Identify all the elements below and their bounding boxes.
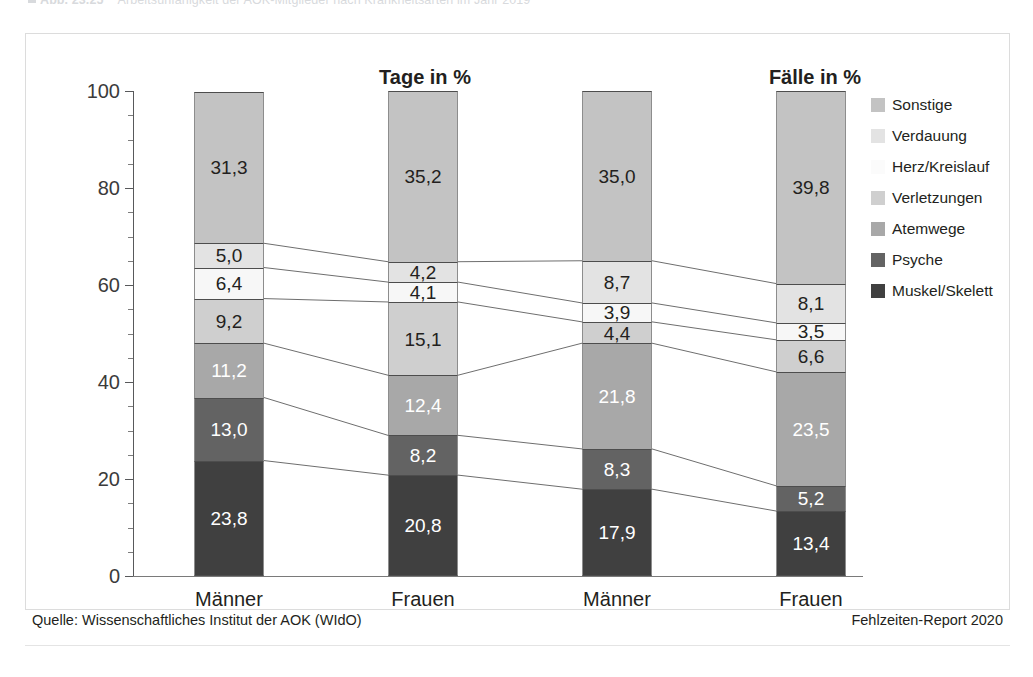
- legend-item-verdauung[interactable]: Verdauung: [871, 120, 1006, 151]
- connector-line: [652, 343, 776, 372]
- legend-item-sonstige[interactable]: Sonstige: [871, 89, 1006, 120]
- caption-marker-icon: [28, 0, 36, 3]
- bar-segment-verletzungen[interactable]: 4,4: [582, 322, 652, 343]
- bar-segment-atemwege[interactable]: 11,2: [194, 343, 264, 397]
- bar-segment-verdauung[interactable]: 5,0: [194, 243, 264, 267]
- bar-4[interactable]: 13,45,223,56,63,58,139,8: [776, 91, 846, 576]
- bar-3[interactable]: 17,98,321,84,43,98,735,0: [582, 91, 652, 576]
- y-tick-40: [125, 382, 133, 383]
- segment-value-label: 39,8: [793, 178, 830, 197]
- segment-value-label: 23,8: [211, 509, 248, 528]
- segment-value-label: 21,8: [599, 387, 636, 406]
- bar-segment-verdauung[interactable]: 4,2: [388, 262, 458, 282]
- connector-line: [264, 268, 388, 283]
- connector-line: [652, 322, 776, 340]
- legend-item-muskel-skelett[interactable]: Muskel/Skelett: [871, 275, 1006, 306]
- bar-segment-psyche[interactable]: 8,3: [582, 449, 652, 489]
- bar-segment-psyche[interactable]: 13,0: [194, 398, 264, 461]
- y-tick-label-20: 20: [98, 469, 120, 489]
- bar-segment-sonstige[interactable]: 31,3: [194, 92, 264, 244]
- chart-figure: Tage in % Fälle in % 020406080100 23,813…: [25, 33, 1010, 610]
- legend-item-herz-kreislauf[interactable]: Herz/Kreislauf: [871, 151, 1006, 182]
- y-tick-20: [125, 479, 133, 480]
- y-minor-tick: [128, 455, 133, 456]
- segment-value-label: 6,4: [216, 274, 242, 293]
- bar-segment-verletzungen[interactable]: 9,2: [194, 299, 264, 344]
- y-minor-tick: [128, 261, 133, 262]
- y-tick-label-80: 80: [98, 178, 120, 198]
- connector-line: [458, 302, 582, 322]
- connector-line: [264, 398, 388, 436]
- segment-value-label: 17,9: [599, 523, 636, 542]
- segment-value-label: 13,4: [793, 534, 830, 553]
- bar-segment-atemwege[interactable]: 21,8: [582, 343, 652, 449]
- y-minor-tick: [128, 358, 133, 359]
- y-minor-tick: [128, 431, 133, 432]
- legend-label: Atemwege: [892, 220, 965, 238]
- y-minor-tick: [128, 503, 133, 504]
- legend-item-psyche[interactable]: Psyche: [871, 244, 1006, 275]
- bar-segment-herz-kreislauf[interactable]: 3,9: [582, 303, 652, 322]
- segment-value-label: 23,5: [793, 420, 830, 439]
- segment-value-label: 5,0: [216, 246, 242, 265]
- y-tick-0: [125, 576, 133, 577]
- bar-segment-atemwege[interactable]: 12,4: [388, 375, 458, 435]
- y-minor-tick: [128, 552, 133, 553]
- bar-segment-verletzungen[interactable]: 15,1: [388, 302, 458, 375]
- connector-line: [458, 435, 582, 449]
- source-note: Quelle: Wissenschaftliches Institut der …: [32, 612, 362, 628]
- bar-segment-verdauung[interactable]: 8,7: [582, 261, 652, 303]
- bar-segment-muskel-skelett[interactable]: 17,9: [582, 489, 652, 576]
- caption-text: Arbeitsunfähigkeit der AOK-Mitglieder na…: [118, 0, 531, 7]
- connector-line: [264, 461, 388, 476]
- y-tick-label-0: 0: [109, 566, 120, 586]
- legend-item-atemwege[interactable]: Atemwege: [871, 213, 1006, 244]
- caption-number: Abb. 23.25: [40, 0, 104, 7]
- bar-segment-muskel-skelett[interactable]: 23,8: [194, 461, 264, 576]
- y-minor-tick: [128, 528, 133, 529]
- segment-value-label: 8,3: [604, 460, 630, 479]
- connector-line: [652, 303, 776, 323]
- bar-segment-sonstige[interactable]: 35,0: [582, 91, 652, 261]
- bar-segment-psyche[interactable]: 5,2: [776, 486, 846, 511]
- bar-segment-atemwege[interactable]: 23,5: [776, 372, 846, 486]
- legend-swatch-icon: [871, 129, 885, 143]
- y-tick-label-100: 100: [87, 81, 120, 101]
- connector-line: [264, 243, 388, 261]
- bar-segment-herz-kreislauf[interactable]: 6,4: [194, 268, 264, 299]
- bar-segment-muskel-skelett[interactable]: 20,8: [388, 475, 458, 576]
- bar-segment-muskel-skelett[interactable]: 13,4: [776, 511, 846, 576]
- y-minor-tick: [128, 334, 133, 335]
- figure-caption: Abb. 23.25Arbeitsunfähigkeit der AOK-Mit…: [28, 0, 530, 7]
- segment-value-label: 31,3: [211, 158, 248, 177]
- y-tick-100: [125, 91, 133, 92]
- y-tick-label-40: 40: [98, 372, 120, 392]
- connector-line: [458, 475, 582, 489]
- figure-footer: Quelle: Wissenschaftliches Institut der …: [25, 612, 1010, 640]
- bar-segment-sonstige[interactable]: 35,2: [388, 91, 458, 262]
- legend-swatch-icon: [871, 191, 885, 205]
- bar-segment-sonstige[interactable]: 39,8: [776, 91, 846, 284]
- legend-label: Psyche: [892, 251, 943, 269]
- y-tick-60: [125, 285, 133, 286]
- y-tick-80: [125, 188, 133, 189]
- bar-segment-herz-kreislauf[interactable]: 4,1: [388, 282, 458, 302]
- bar-segment-verletzungen[interactable]: 6,6: [776, 340, 846, 372]
- bar-2[interactable]: 20,88,212,415,14,14,235,2: [388, 91, 458, 576]
- segment-value-label: 5,2: [798, 489, 824, 508]
- connector-line: [652, 489, 776, 511]
- bar-segment-verdauung[interactable]: 8,1: [776, 284, 846, 323]
- segment-value-label: 4,1: [410, 283, 436, 302]
- connector-line: [652, 261, 776, 284]
- connector-line: [458, 261, 582, 262]
- segment-value-label: 4,4: [604, 324, 630, 343]
- segment-value-label: 3,9: [604, 303, 630, 321]
- figure-caption-strip: Abb. 23.25Arbeitsunfähigkeit der AOK-Mit…: [0, 0, 1033, 20]
- bar-segment-psyche[interactable]: 8,2: [388, 435, 458, 475]
- y-minor-tick: [128, 212, 133, 213]
- y-minor-tick: [128, 237, 133, 238]
- y-tick-label-60: 60: [98, 275, 120, 295]
- bar-1[interactable]: 23,813,011,29,26,45,031,3: [194, 91, 264, 576]
- legend-item-verletzungen[interactable]: Verletzungen: [871, 182, 1006, 213]
- bar-segment-herz-kreislauf[interactable]: 3,5: [776, 323, 846, 340]
